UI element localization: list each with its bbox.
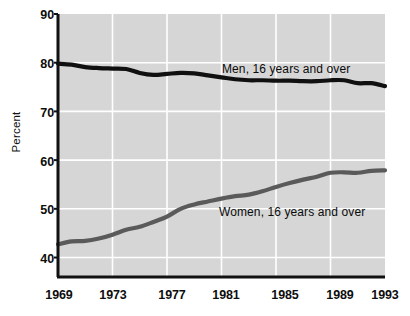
series-label-men: Men, 16 years and over [222, 62, 350, 76]
labor-force-participation-chart: Percent 90 80 70 60 50 40 1969 1973 1977… [0, 0, 410, 316]
plot-area [0, 0, 410, 316]
series-label-women: Women, 16 years and over [219, 205, 365, 219]
